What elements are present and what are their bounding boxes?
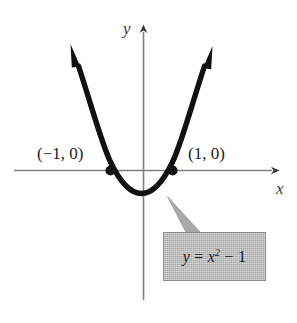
callout-leader [168,197,201,233]
y-axis-label: y [123,20,131,37]
equals-sign: = [194,248,203,265]
minus-sign: − [225,248,234,265]
equation-constant: 1 [238,248,246,265]
parabola-curve [79,66,205,194]
equation-text: y = x2 − 1 [183,247,246,266]
x-axis-label: x [276,180,284,197]
root-marker-right [167,165,177,175]
equation-callout-box: y = x2 − 1 [163,232,266,281]
parabola-figure: y x (−1, 0) (1, 0) y = x2 − 1 [0,0,297,323]
equation-variable: x [208,248,215,265]
right-root-label: (1, 0) [188,145,225,162]
left-root-label: (−1, 0) [37,145,83,162]
root-marker-left [105,165,115,175]
